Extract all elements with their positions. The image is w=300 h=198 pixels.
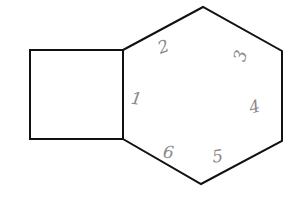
hexagon-label-1: 1	[130, 88, 144, 109]
diagram-canvas: 1 2 3 4 5 6	[0, 0, 300, 198]
hexagon-label-5: 5	[211, 145, 225, 166]
hexagon-shape	[123, 7, 282, 184]
hexagon-label-2: 2	[154, 35, 172, 58]
square-shape	[30, 50, 123, 139]
hexagon-label-3: 3	[229, 48, 251, 64]
hexagon-label-6: 6	[162, 142, 175, 163]
hexagon-label-4: 4	[246, 96, 263, 118]
